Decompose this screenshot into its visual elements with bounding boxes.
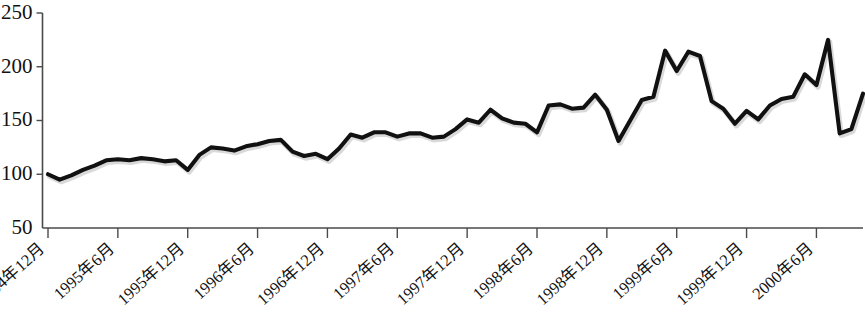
series-line: [48, 40, 863, 180]
y-axis: 50100150200250: [1, 0, 43, 239]
chart-figure: 50100150200250 1994年12月1995年6月1995年12月19…: [0, 0, 865, 331]
x-tick-label: 1998年6月: [469, 239, 538, 303]
x-tick-label: 1994年12月: [0, 239, 49, 309]
line-chart: 50100150200250 1994年12月1995年6月1995年12月19…: [0, 0, 865, 331]
x-tick-label: 1996年12月: [253, 239, 328, 309]
x-tick-label: 2000年6月: [748, 239, 817, 303]
y-tick-label: 150: [1, 107, 33, 131]
x-tick-label: 1999年12月: [672, 239, 747, 309]
x-tick-label: 1997年12月: [393, 239, 468, 309]
x-tick-label: 1998年12月: [533, 239, 608, 309]
x-tick-label: 1995年12月: [114, 239, 189, 309]
x-tick-label: 1999年6月: [609, 239, 678, 303]
y-tick-label: 100: [1, 161, 33, 185]
y-tick-label: 50: [12, 215, 33, 239]
plot-area: [48, 40, 865, 182]
x-tick-label: 1997年6月: [329, 239, 398, 303]
y-tick-label: 200: [1, 54, 33, 78]
x-axis: [43, 228, 864, 238]
x-tick-labels: 1994年12月1995年6月1995年12月1996年6月1996年12月19…: [0, 239, 817, 309]
x-tick-label: 1996年6月: [190, 239, 259, 303]
x-tick-label: 1995年6月: [50, 239, 119, 303]
y-tick-label: 250: [1, 0, 33, 24]
